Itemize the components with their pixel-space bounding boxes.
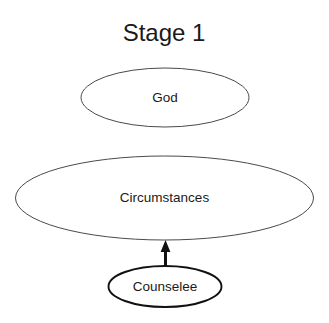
stage-diagram: Stage 1 God Circumstances Counselee [0, 0, 329, 323]
god-label: God [152, 90, 178, 105]
arrow-counselee-to-circumstances[interactable] [161, 240, 171, 269]
node-counselee[interactable]: Counselee [109, 266, 222, 307]
diagram-canvas: Stage 1 God Circumstances Counselee [0, 0, 329, 323]
counselee-label: Counselee [133, 279, 198, 294]
page-title: Stage 1 [123, 19, 206, 46]
node-circumstances[interactable]: Circumstances [16, 156, 314, 240]
node-god[interactable]: God [81, 68, 249, 127]
circumstances-label: Circumstances [120, 190, 210, 205]
arrow-head-icon [161, 240, 171, 252]
